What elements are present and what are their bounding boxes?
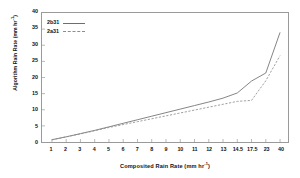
y-axis-title-tail: ) <box>12 15 18 17</box>
y-axis-title-text: Algorithm Rain Rate (mm hr <box>12 20 18 90</box>
series-line-2b31 <box>52 32 280 139</box>
x-tick-label: 5 <box>107 147 110 152</box>
series-line-2a31 <box>52 56 280 140</box>
legend-label: 2b31 <box>47 20 59 25</box>
rain-rate-line-chart: Algorithm Rain Rate (mm hr-1) 0510152025… <box>0 0 300 178</box>
x-tick-label: 13 <box>221 147 227 152</box>
legend-item-2b31: 2b31 <box>47 20 85 26</box>
x-tick-label: 14.5 <box>233 147 244 152</box>
chart-legend: 2b312a31 <box>47 20 85 35</box>
x-tick-label: 10 <box>177 147 183 152</box>
y-tick-label: 15 <box>20 91 38 96</box>
x-tick-label: 40 <box>278 147 284 152</box>
y-axis-tick-labels: 0510152025303540 <box>20 12 38 143</box>
y-tick-label: 40 <box>20 9 38 14</box>
y-axis-title: Algorithm Rain Rate (mm hr-1) <box>10 0 18 119</box>
x-tick-label: 6 <box>121 147 124 152</box>
legend-item-2a31: 2a31 <box>47 29 85 35</box>
y-tick-label: 30 <box>20 42 38 47</box>
x-tick-label: 4 <box>93 147 96 152</box>
x-tick-label: 2 <box>64 147 67 152</box>
y-axis-title-exponent: -1 <box>10 17 15 21</box>
legend-swatch-solid <box>63 23 85 24</box>
x-axis-title-tail: ) <box>208 163 210 169</box>
y-tick-label: 0 <box>20 140 38 145</box>
x-tick-label: 1 <box>50 147 53 152</box>
x-tick-label: 3 <box>78 147 81 152</box>
y-tick-label: 35 <box>20 26 38 31</box>
x-tick-label: 8 <box>150 147 153 152</box>
x-tick-label: 9 <box>165 147 168 152</box>
y-tick-label: 10 <box>20 108 38 113</box>
x-tick-label: 17.5 <box>247 147 258 152</box>
x-axis-title-text: Composited Rain Rate (mm hr <box>120 163 204 169</box>
x-tick-label: 12 <box>206 147 212 152</box>
x-axis-tick-labels: 1234567891011121314.517.52340 <box>41 147 289 157</box>
x-tick-label: 11 <box>192 147 198 152</box>
x-tick-label: 7 <box>136 147 139 152</box>
y-tick-label: 20 <box>20 75 38 80</box>
legend-label: 2a31 <box>47 29 59 34</box>
legend-swatch-dashed <box>63 31 85 32</box>
x-tick-label: 23 <box>264 147 270 152</box>
x-axis-title: Composited Rain Rate (mm hr-1) <box>41 161 289 169</box>
y-tick-label: 25 <box>20 58 38 63</box>
y-tick-label: 5 <box>20 124 38 129</box>
